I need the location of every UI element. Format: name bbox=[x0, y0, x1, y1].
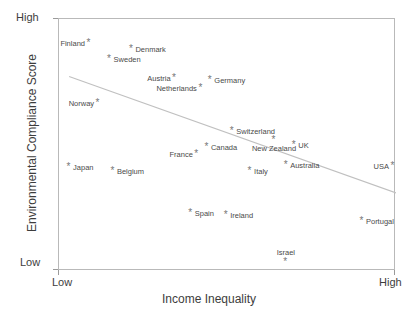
point-marker-icon: * bbox=[194, 149, 198, 159]
x-axis-title: Income Inequality bbox=[0, 292, 418, 306]
point-label: Canada bbox=[211, 144, 237, 152]
point-label: New Zealand bbox=[252, 145, 296, 153]
y-tick-label-low: Low bbox=[20, 256, 40, 268]
point-marker-icon: * bbox=[283, 257, 287, 267]
point-marker-icon: * bbox=[284, 160, 288, 170]
point-marker-icon: * bbox=[129, 44, 133, 54]
point-label: Belgium bbox=[117, 168, 144, 176]
point-label: Italy bbox=[254, 168, 268, 176]
point-marker-icon: * bbox=[224, 210, 228, 220]
plot-area: *Finland*Denmark*Sweden*Austria*Germany*… bbox=[58, 18, 395, 270]
x-tick-label-low: Low bbox=[52, 276, 72, 288]
point-label: Sweden bbox=[114, 56, 141, 64]
point-label: Finland bbox=[60, 40, 85, 48]
x-tick-mark-low bbox=[58, 270, 59, 275]
point-label: Australia bbox=[290, 162, 319, 170]
point-marker-icon: * bbox=[188, 208, 192, 218]
point-marker-icon: * bbox=[230, 126, 234, 136]
point-marker-icon: * bbox=[110, 166, 114, 176]
point-label: Ireland bbox=[230, 212, 253, 220]
point-marker-icon: * bbox=[86, 38, 90, 48]
point-marker-icon: * bbox=[292, 140, 296, 150]
point-label: France bbox=[169, 151, 192, 159]
x-tick-label-high: High bbox=[379, 276, 402, 288]
point-label: Germany bbox=[214, 77, 245, 85]
point-marker-icon: * bbox=[390, 161, 394, 171]
point-label: Norway bbox=[69, 100, 94, 108]
point-label: Switzerland bbox=[236, 128, 275, 136]
point-marker-icon: * bbox=[67, 162, 71, 172]
point-label: Netherlands bbox=[156, 85, 196, 93]
point-marker-icon: * bbox=[204, 142, 208, 152]
y-tick-label-high: High bbox=[16, 11, 39, 23]
point-label: Japan bbox=[73, 164, 93, 172]
point-label: Austria bbox=[147, 75, 170, 83]
point-marker-icon: * bbox=[359, 216, 363, 226]
point-label: USA bbox=[374, 163, 389, 171]
x-tick-mark-high bbox=[394, 270, 395, 275]
point-label: UK bbox=[298, 142, 308, 150]
point-marker-icon: * bbox=[208, 75, 212, 85]
point-label: Israel bbox=[277, 249, 295, 257]
point-marker-icon: * bbox=[172, 73, 176, 83]
point-marker-icon: * bbox=[96, 98, 100, 108]
point-marker-icon: * bbox=[107, 54, 111, 64]
point-label: Spain bbox=[195, 210, 214, 218]
point-label: Denmark bbox=[135, 46, 165, 54]
scatter-chart: Environmental Compliance Score High Low … bbox=[0, 0, 418, 315]
point-label: Portugal bbox=[366, 218, 394, 226]
point-marker-icon: * bbox=[248, 166, 252, 176]
y-axis-title: Environmental Compliance Score bbox=[25, 17, 39, 269]
point-marker-icon: * bbox=[198, 83, 202, 93]
